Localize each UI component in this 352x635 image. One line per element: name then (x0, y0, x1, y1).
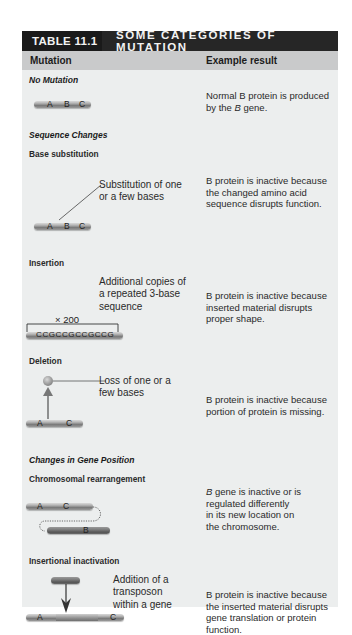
note-line: or a few bases (99, 191, 182, 203)
note-line: sequence (99, 301, 186, 313)
column-header-mutation: Mutation (30, 55, 72, 66)
note-insertion: Additional copies of a repeated 3-base s… (99, 276, 186, 313)
note-line: transposon (113, 586, 172, 598)
result-line: B protein is inactive because (206, 394, 327, 406)
result-base-substitution: B protein is inactive because the change… (206, 175, 327, 210)
gene-label-a: A (47, 221, 53, 231)
result-line: proper shape. (206, 313, 327, 325)
repeat-sequence: CCGCCGCCGCCG (36, 330, 114, 340)
note-line: Addition of a (113, 574, 172, 586)
result-line: B protein is inactive because (206, 175, 327, 187)
note-line: a repeated 3-base (99, 288, 186, 300)
note-base-substitution: Substitution of one or a few bases (99, 179, 182, 204)
result-deletion: B protein is inactive because portion of… (206, 394, 327, 417)
result-line: B gene is inactive or is (206, 486, 301, 498)
type-insertion: Insertion (29, 258, 64, 268)
note-line: few bases (99, 387, 171, 399)
note-line: within a gene (113, 599, 172, 611)
result-line: B protein is inactive because (206, 290, 327, 302)
note-line: Substitution of one (99, 179, 182, 191)
gene-label-a: A (37, 612, 43, 622)
note-insertional-inactivation: Addition of a transposon within a gene (113, 574, 172, 611)
category-gene-position: Changes in Gene Position (29, 455, 134, 465)
result-line: the inserted material disrupts (206, 601, 328, 613)
gene-label-b: B (64, 221, 70, 231)
result-line: in its new location on (206, 509, 301, 521)
chromosome-normal-diagram: A B C (34, 101, 91, 108)
column-header-result: Example result (206, 55, 277, 66)
inserted-segment (56, 614, 98, 621)
gene-label-c: C (110, 612, 116, 622)
down-arrow-icon (59, 584, 73, 614)
gene-label-a: A (47, 99, 53, 109)
category-no-mutation: No Mutation (29, 75, 78, 85)
deletion-arrow-icon (36, 375, 106, 421)
result-line: sequence disrupts function. (206, 198, 327, 210)
result-line: inserted material disrupts (206, 302, 327, 314)
category-sequence-changes: Sequence Changes (29, 130, 107, 140)
gene-label-c: C (79, 221, 85, 231)
mutation-table: TABLE 11.1 SOME CATEGORIES OF MUTATION M… (22, 31, 338, 607)
type-insertional-inactivation: Insertional inactivation (29, 556, 119, 566)
type-deletion: Deletion (29, 356, 62, 366)
gene-label-c: C (79, 99, 85, 109)
column-header-row: Mutation Example result (22, 51, 338, 70)
transposon-element (51, 577, 80, 584)
result-text: by the (206, 102, 235, 113)
gene-label-c: C (66, 418, 72, 428)
result-chromosomal-rearrangement: B gene is inactive or is regulated diffe… (206, 486, 301, 532)
result-line: B protein is inactive because (206, 589, 328, 601)
result-text: gene. (241, 102, 267, 113)
result-line: regulated differently (206, 498, 301, 510)
chromosome-insertional-diagram: A C (26, 614, 124, 621)
note-line: Additional copies of (99, 276, 186, 288)
gene-label-b: B (64, 99, 70, 109)
note-deletion: Loss of one or a few bases (99, 375, 171, 400)
result-line: the chromosome. (206, 521, 301, 533)
type-base-substitution: Base substitution (29, 149, 99, 159)
chromosome-insertion-diagram: CCGCCGCCGCCG (26, 332, 123, 339)
table-number: TABLE 11.1 (22, 31, 102, 51)
chromosome-substitution-diagram: A B C (34, 223, 91, 230)
chromosome-rearrangement-bottom: B (47, 527, 110, 534)
type-chromosomal-rearrangement: Chromosomal rearrangement (29, 474, 145, 484)
result-line: by the B gene. (206, 102, 329, 114)
gene-label-a: A (37, 418, 43, 428)
table-title: SOME CATEGORIES OF MUTATION (102, 31, 338, 51)
result-text: gene is inactive or is (212, 486, 301, 497)
result-line: the changed amino acid (206, 187, 327, 199)
result-line: function. (206, 624, 328, 635)
result-line: Normal B protein is produced (206, 90, 329, 102)
result-no-mutation: Normal B protein is produced by the B ge… (206, 90, 329, 113)
result-line: portion of protein is missing. (206, 406, 327, 418)
table-title-bar: TABLE 11.1 SOME CATEGORIES OF MUTATION (22, 31, 338, 51)
result-line: gene translation or protein (206, 612, 328, 624)
gene-label-b: B (83, 525, 89, 535)
result-insertion: B protein is inactive because inserted m… (206, 290, 327, 325)
chromosome-deletion-diagram: A C (26, 420, 83, 427)
note-line: Loss of one or a (99, 375, 171, 387)
result-insertional-inactivation: B protein is inactive because the insert… (206, 589, 328, 635)
